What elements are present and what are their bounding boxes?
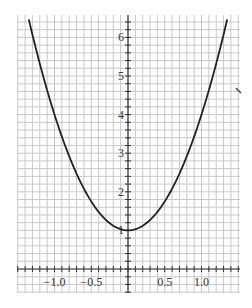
axes [17, 15, 240, 293]
x-tick-label: −0.5 [80, 275, 102, 289]
x-tick-label: 0.5 [157, 275, 172, 289]
tick-labels: −1.0−0.50.51.0123456 [44, 30, 209, 289]
x-tick-label: 1.0 [194, 275, 209, 289]
y-tick-label: 5 [118, 69, 124, 83]
y-tick-label: 6 [118, 30, 124, 44]
parabola-chart: −1.0−0.50.51.0123456 [0, 0, 252, 308]
y-tick-label: 3 [118, 146, 124, 160]
y-tick-label: 4 [118, 108, 124, 122]
y-tick-label: 2 [118, 185, 124, 199]
x-tick-label: −1.0 [44, 275, 66, 289]
